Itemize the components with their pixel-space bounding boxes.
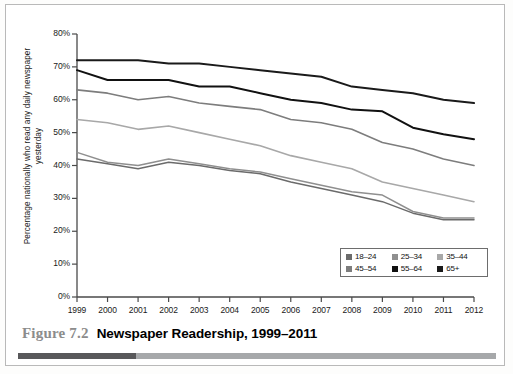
legend-item-65plus[interactable]: 65+ xyxy=(437,264,482,273)
figure-caption: Figure 7.2 Newspaper Readership, 1999–20… xyxy=(6,325,504,342)
legend-row: 18–24 25–34 35–44 xyxy=(346,252,483,261)
y-tick-label: 60% xyxy=(36,94,70,104)
caption-rule-light xyxy=(136,353,496,359)
legend-item-25-34[interactable]: 25–34 xyxy=(392,252,437,261)
legend-swatch-25-34 xyxy=(392,254,398,260)
x-tick-label: 2005 xyxy=(243,305,277,315)
y-tick-label: 30% xyxy=(36,192,70,202)
figure-panel: Percentage nationally who read any daily… xyxy=(6,5,504,365)
legend-swatch-18-24 xyxy=(346,254,352,260)
legend-item-18-24[interactable]: 18–24 xyxy=(346,252,391,261)
legend-label-25-34: 25–34 xyxy=(401,252,422,261)
x-tick-label: 2002 xyxy=(152,305,186,315)
x-tick-label: 2008 xyxy=(335,305,369,315)
legend-swatch-65plus xyxy=(437,266,443,272)
y-tick-label: 0% xyxy=(36,291,70,301)
figure-title: Newspaper Readership, 1999–2011 xyxy=(97,326,318,341)
legend-label-35-44: 35–44 xyxy=(446,252,467,261)
legend-swatch-45-54 xyxy=(346,266,352,272)
legend-item-35-44[interactable]: 35–44 xyxy=(437,252,482,261)
figure-number: Figure 7.2 xyxy=(22,325,89,342)
figure-caption-block: Figure 7.2 Newspaper Readership, 1999–20… xyxy=(6,325,504,342)
x-tick-label: 2003 xyxy=(182,305,216,315)
caption-rule xyxy=(18,353,496,359)
legend-label-18-24: 18–24 xyxy=(355,252,376,261)
legend-item-45-54[interactable]: 45–54 xyxy=(346,264,391,273)
x-tick-label: 2000 xyxy=(91,305,125,315)
series-line-35-44 xyxy=(77,119,474,201)
legend-label-65plus: 65+ xyxy=(446,264,459,273)
x-tick-label: 2007 xyxy=(304,305,338,315)
x-tick-label: 2011 xyxy=(426,305,460,315)
y-tick-label: 10% xyxy=(36,258,70,268)
legend-swatch-35-44 xyxy=(437,254,443,260)
y-tick-label: 40% xyxy=(36,160,70,170)
x-tick-label: 2001 xyxy=(121,305,155,315)
chart-legend[interactable]: 18–24 25–34 35–44 45–54 xyxy=(340,248,488,277)
y-tick-label: 50% xyxy=(36,127,70,137)
legend-label-55-64: 55–64 xyxy=(401,264,422,273)
legend-item-55-64[interactable]: 55–64 xyxy=(392,264,437,273)
y-tick-label: 80% xyxy=(36,28,70,38)
legend-label-45-54: 45–54 xyxy=(355,264,376,273)
x-tick-label: 2004 xyxy=(213,305,247,315)
x-tick-label: 2012 xyxy=(457,305,491,315)
y-tick-label: 20% xyxy=(36,225,70,235)
x-tick-label: 1999 xyxy=(60,305,94,315)
caption-rule-dark xyxy=(18,353,136,359)
figure-page: Percentage nationally who read any daily… xyxy=(0,0,513,374)
x-tick-label: 2009 xyxy=(365,305,399,315)
legend-swatch-55-64 xyxy=(392,266,398,272)
legend-row: 45–54 55–64 65+ xyxy=(346,264,483,273)
x-tick-label: 2010 xyxy=(396,305,430,315)
x-tick-label: 2006 xyxy=(274,305,308,315)
y-tick-label: 70% xyxy=(36,61,70,71)
series-line-25-34 xyxy=(77,152,474,218)
line-chart: Percentage nationally who read any daily… xyxy=(6,5,504,321)
